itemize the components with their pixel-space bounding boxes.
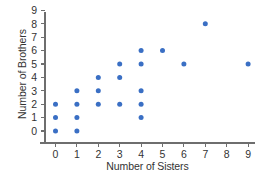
- x-tick-label: 2: [95, 148, 101, 160]
- y-tick-label: 0: [31, 125, 37, 137]
- data-point: [181, 62, 186, 67]
- x-tick-label: 3: [117, 148, 123, 160]
- data-point: [160, 48, 165, 53]
- data-point: [96, 102, 101, 107]
- data-point: [96, 75, 101, 80]
- y-tick-label: 6: [31, 44, 37, 56]
- y-tick-label: 1: [31, 111, 37, 123]
- y-tick-label: 2: [31, 98, 37, 110]
- y-tick-label: 5: [31, 58, 37, 70]
- data-point: [74, 129, 79, 134]
- data-point: [117, 75, 122, 80]
- x-tick-label: 5: [160, 148, 166, 160]
- scatter-plot: Number of Brothers 0123456789 0123456789…: [0, 0, 266, 183]
- data-point: [74, 88, 79, 93]
- data-point: [53, 115, 58, 120]
- x-tick-label: 1: [74, 148, 80, 160]
- y-tick-label: 7: [31, 31, 37, 43]
- data-point: [53, 129, 58, 134]
- x-axis-title: Number of Sisters: [40, 160, 255, 172]
- y-tick-label: 8: [31, 18, 37, 30]
- plot-area: 0123456789 0123456789: [0, 0, 266, 183]
- x-tick-label: 6: [181, 148, 187, 160]
- data-point: [203, 21, 208, 26]
- data-point: [117, 102, 122, 107]
- x-tick-marks: [56, 143, 249, 147]
- data-point: [246, 62, 251, 67]
- x-tick-labels: 0123456789: [53, 148, 252, 160]
- y-tick-label: 9: [31, 4, 37, 16]
- x-tick-label: 9: [245, 148, 251, 160]
- data-point: [117, 62, 122, 67]
- x-tick-label: 7: [202, 148, 208, 160]
- y-tick-label: 3: [31, 85, 37, 97]
- y-tick-marks: [41, 10, 45, 131]
- x-tick-label: 8: [224, 148, 230, 160]
- data-point: [74, 102, 79, 107]
- x-tick-label: 4: [138, 148, 144, 160]
- data-point: [139, 62, 144, 67]
- y-tick-labels: 0123456789: [31, 4, 37, 137]
- data-point: [139, 88, 144, 93]
- x-tick-label: 0: [53, 148, 59, 160]
- y-tick-label: 4: [31, 71, 37, 83]
- data-point: [139, 115, 144, 120]
- data-points-group: [53, 21, 251, 133]
- data-point: [96, 88, 101, 93]
- data-point: [139, 102, 144, 107]
- data-point: [53, 102, 58, 107]
- data-point: [139, 48, 144, 53]
- data-point: [74, 115, 79, 120]
